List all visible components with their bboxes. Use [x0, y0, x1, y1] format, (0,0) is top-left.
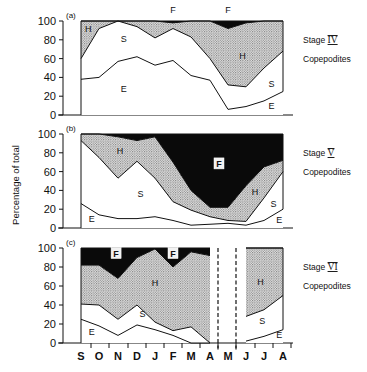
month-label: N [114, 350, 122, 362]
panel-c: 020406080100(c)Stage VICopepoditesFFHSEH… [38, 238, 351, 351]
y-tick-label: 80 [44, 261, 56, 273]
region-label-E: E [269, 101, 275, 111]
panel-b: 020406080100(b)Stage VCopepoditesHSEFHSE [38, 124, 351, 234]
region-label-H: H [252, 187, 259, 197]
region-label-H: H [152, 278, 159, 288]
region-label-S: S [138, 189, 144, 199]
month-label: J [152, 350, 158, 362]
y-tick-label: 0 [50, 109, 56, 121]
stage-subtitle: Copepodites [303, 167, 351, 177]
region-label-S: S [270, 199, 276, 209]
region-label-E: E [89, 214, 95, 224]
region-label-H: H [257, 277, 264, 287]
stage-numeral: VI [328, 262, 338, 272]
month-label: M [223, 350, 232, 362]
y-tick-label: 80 [44, 147, 56, 159]
y-tick-label: 0 [50, 222, 56, 234]
region-label-S: S [269, 79, 275, 89]
region-label-F: F [170, 5, 176, 15]
stage-title: Stage V [303, 148, 335, 158]
y-tick-label: 20 [44, 203, 56, 215]
stage-numeral: V [328, 148, 335, 158]
y-tick-label: 100 [38, 15, 56, 27]
y-tick-label: 60 [44, 280, 56, 292]
stage-title: Stage VI [303, 262, 338, 272]
region-label-E: E [276, 215, 282, 225]
panel-label: (a) [66, 11, 76, 20]
region-label-E: E [89, 327, 95, 337]
region-label-E: E [121, 84, 127, 94]
y-tick-label: 80 [44, 34, 56, 46]
region-label-H: H [239, 51, 246, 61]
month-label: A [206, 350, 214, 362]
y-tick-label: 20 [44, 318, 56, 330]
y-tick-label: 40 [44, 299, 56, 311]
month-label: F [170, 350, 177, 362]
copepodite-stage-chart: 020406080100(a)Stage IVCopepoditesHSEFFH… [0, 0, 367, 372]
month-label: A [279, 350, 287, 362]
y-tick-label: 40 [44, 184, 56, 196]
month-label: M [186, 350, 195, 362]
month-label: O [95, 350, 104, 362]
y-tick-label: 100 [38, 242, 56, 254]
stage-title: Stage IV [303, 35, 338, 45]
y-tick-label: 100 [38, 128, 56, 140]
x-axis-labels: SONDJFMAMJJA [77, 343, 291, 362]
region-label-H: H [117, 146, 124, 156]
y-tick-label: 60 [44, 166, 56, 178]
y-tick-label: 60 [44, 53, 56, 65]
month-label: D [133, 350, 141, 362]
y-tick-label: 40 [44, 71, 56, 83]
stage-numeral: IV [328, 35, 338, 45]
month-label: S [77, 350, 84, 362]
y-tick-label: 20 [44, 90, 56, 102]
panel-label: (b) [66, 124, 76, 133]
region-label-S: S [259, 316, 265, 326]
y-axis-title: Percentage of total [10, 145, 21, 225]
region-label-F: F [170, 249, 176, 259]
panel-label: (c) [66, 238, 76, 247]
region-label-S: S [139, 309, 145, 319]
region-label-H: H [85, 24, 92, 34]
stage-subtitle: Copepodites [303, 54, 351, 64]
month-label: J [261, 350, 267, 362]
panel-a: 020406080100(a)Stage IVCopepoditesHSEFFH… [38, 5, 351, 121]
region-label-F: F [225, 5, 231, 15]
y-tick-label: 0 [50, 337, 56, 349]
stage-subtitle: Copepodites [303, 281, 351, 291]
month-label: J [243, 350, 249, 362]
region-label-F: F [216, 159, 222, 169]
region-label-F: F [113, 249, 119, 259]
region-label-E: E [276, 330, 282, 340]
region-label-S: S [121, 34, 127, 44]
